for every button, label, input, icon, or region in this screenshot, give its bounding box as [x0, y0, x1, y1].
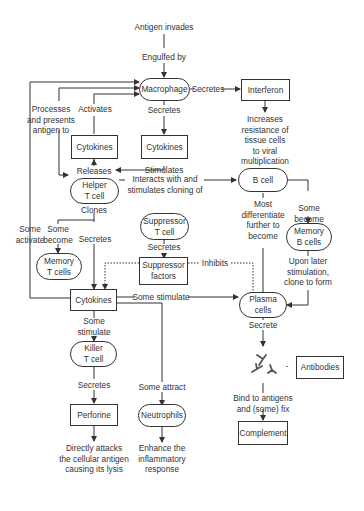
- secretes-killer-label: Secretes: [78, 380, 111, 391]
- releases-label: Releases: [77, 166, 112, 177]
- secretes-helper-label: Secretes: [79, 234, 112, 245]
- perforine-node[interactable]: Perforine: [70, 404, 118, 426]
- processes-presents-label: Processes and presents antigen to: [27, 104, 75, 136]
- some-attract-label: Some attract: [138, 382, 185, 393]
- macrophage-node[interactable]: Macrophage: [139, 78, 190, 101]
- antibodies-node[interactable]: Antibodies: [296, 356, 344, 379]
- secrete-plasma-label: Secrete: [249, 320, 278, 331]
- bind-to-antigens-label: Bind to antigens and (some) fix: [233, 393, 293, 414]
- cytokines-center-node[interactable]: Cytokines: [70, 289, 117, 311]
- cytokines-right-node[interactable]: Cytokines: [141, 135, 188, 159]
- helper-t-cell-node[interactable]: Helper T cell: [70, 178, 119, 204]
- increases-resistance-label: Increases resistance of tissue cells to …: [241, 114, 289, 167]
- suppressor-factors-node[interactable]: Suppressor factors: [139, 257, 188, 285]
- some-become-b-label: Some become: [294, 203, 324, 224]
- most-differentiate-label: Most differentiate further to become: [241, 199, 284, 241]
- complement-node[interactable]: Complement: [238, 421, 288, 445]
- interacts-with-label: Interacts with and stimulates cloning of: [127, 174, 202, 195]
- antigen-invades-label: Antigen invades: [134, 22, 193, 33]
- secretes-macrophage-label: Secretes: [148, 105, 181, 116]
- upon-later-label: Upon later stimulation, clone to form: [284, 256, 332, 288]
- enhance-inflammatory-label: Enhance the inflammatory response: [138, 443, 186, 475]
- some-stimulate-plasma-label: Some stimulate: [132, 292, 189, 303]
- plasma-cells-node[interactable]: Plasma cells: [239, 292, 287, 318]
- killer-t-cell-node[interactable]: Killer T cell: [70, 341, 117, 367]
- some-stimulate-killer-label: Some stimulate: [77, 316, 110, 337]
- neutrophils-node[interactable]: Neutrophils: [138, 404, 186, 427]
- suppressor-t-cell-node[interactable]: Suppressor T cell: [140, 213, 189, 240]
- engulfed-by-label: Engulfed by: [142, 52, 186, 63]
- secretes-suppressor-label: Secretes: [148, 242, 181, 253]
- cytokines-left-node[interactable]: Cytokines: [71, 135, 118, 159]
- some-become-t-label: Some become: [43, 224, 73, 245]
- clones-label: Clones: [81, 205, 107, 216]
- antibody-dash-label: -: [286, 361, 289, 372]
- b-cell-node[interactable]: B cell: [238, 168, 288, 192]
- activates-label: Activates: [78, 104, 112, 115]
- interferon-node[interactable]: Interferon: [241, 79, 290, 101]
- memory-b-cells-node[interactable]: Memory B cells: [286, 223, 332, 251]
- secretes-interferon-label: Secretes: [192, 84, 225, 95]
- directly-attacks-label: Directly attacks the cellular antigen ca…: [59, 443, 129, 475]
- some-activate-label: Some activate: [16, 224, 45, 245]
- inhibits-label: Inhibits: [202, 258, 228, 269]
- antibody-glyph: [252, 355, 276, 373]
- memory-t-cells-node[interactable]: Memory T cells: [36, 253, 82, 280]
